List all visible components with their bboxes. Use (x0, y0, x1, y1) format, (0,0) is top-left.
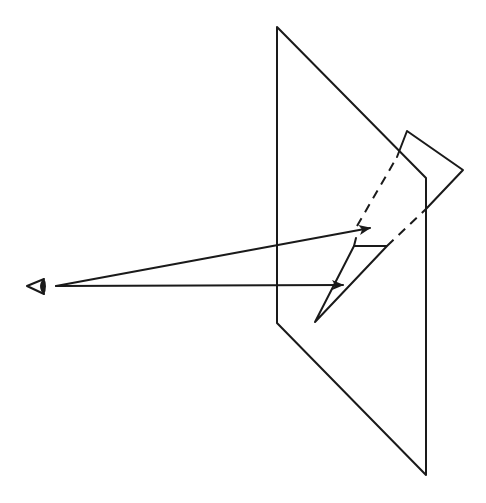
object-triangle (397, 131, 463, 209)
diagram-canvas: Perspective projection: eye, picture pla… (0, 0, 486, 503)
image-triangle-left-edge (354, 238, 356, 246)
projection-ray-upper (56, 228, 370, 286)
eye-icon (27, 278, 46, 295)
hidden-ray-lower (387, 209, 426, 246)
perspective-diagram (0, 0, 486, 503)
image-triangle (315, 246, 387, 322)
hidden-ray-upper (357, 157, 397, 226)
projection-ray-lower (56, 285, 343, 286)
